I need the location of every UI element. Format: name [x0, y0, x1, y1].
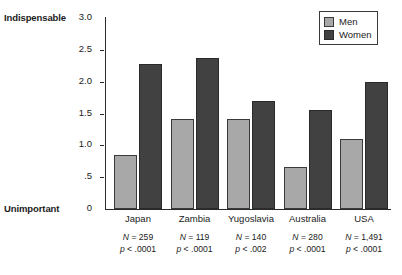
y-axis-tick-label: 2.5 — [79, 43, 92, 54]
annotation-p-value: p < .0001 — [120, 244, 156, 256]
annotation-sample-size: N = 280 — [289, 232, 325, 244]
annotation-japan: N = 259p < .0001 — [120, 232, 156, 255]
plot-area — [105, 18, 390, 209]
annotation-sample-size: N = 1,491 — [345, 232, 383, 244]
y-axis-tick-label: .5 — [84, 170, 92, 181]
bar-yugoslavia-men — [227, 119, 250, 209]
bar-yugoslavia-women — [252, 101, 275, 209]
bar-japan-women — [139, 64, 162, 209]
y-axis-tick-label: 3.0 — [79, 11, 92, 22]
annotation-australia: N = 280p < .0001 — [289, 232, 325, 255]
x-axis-label-australia: Australia — [289, 213, 326, 224]
y-axis-tick-mark — [100, 82, 104, 83]
y-axis-tick-mark — [100, 114, 104, 115]
x-axis-label-japan: Japan — [125, 213, 151, 224]
annotation-yugoslavia: N = 140p < .002 — [235, 232, 266, 255]
annotation-p-value: p < .002 — [235, 244, 266, 256]
annotation-p-value: p < .0001 — [345, 244, 383, 256]
y-axis-tick-label: 2.0 — [79, 75, 92, 86]
y-axis-tick-label: 0 — [87, 202, 92, 213]
bar-usa-men — [340, 139, 363, 209]
y-axis-tick-mark — [100, 177, 104, 178]
bar-group — [227, 18, 275, 209]
legend-swatch-women — [324, 30, 334, 40]
y-axis-tick-mark — [100, 50, 104, 51]
x-axis-label-yugoslavia: Yugoslavia — [228, 213, 274, 224]
annotation-p-value: p < .0001 — [289, 244, 325, 256]
y-axis-tick-label: 1.5 — [79, 107, 92, 118]
bar-group — [340, 18, 388, 209]
x-axis-line — [105, 209, 391, 210]
annotation-p-value: p < .0001 — [176, 244, 212, 256]
y-axis-tick-label: 1.0 — [79, 138, 92, 149]
legend-swatch-men — [324, 17, 334, 27]
annotation-sample-size: N = 259 — [120, 232, 156, 244]
bar-chart: Indispensable Unimportant 0.51.01.52.02.… — [0, 0, 402, 275]
annotation-sample-size: N = 140 — [235, 232, 266, 244]
bar-zambia-men — [171, 119, 194, 209]
bar-australia-women — [309, 110, 332, 209]
legend-item-women: Women — [324, 28, 372, 41]
legend-label: Women — [339, 29, 372, 40]
axis-endpoint-low-label: Unimportant — [4, 203, 59, 214]
bar-usa-women — [365, 82, 388, 209]
annotation-usa: N = 1,491p < .0001 — [345, 232, 383, 255]
bar-group — [114, 18, 162, 209]
bar-zambia-women — [196, 58, 219, 209]
bar-group — [171, 18, 219, 209]
bar-group — [284, 18, 332, 209]
bar-japan-men — [114, 155, 137, 209]
annotation-sample-size: N = 119 — [176, 232, 212, 244]
x-axis-label-zambia: Zambia — [179, 213, 211, 224]
x-axis-label-usa: USA — [354, 213, 374, 224]
bar-australia-men — [284, 167, 307, 209]
legend-item-men: Men — [324, 15, 372, 28]
y-axis-tick-mark — [100, 145, 104, 146]
annotation-zambia: N = 119p < .0001 — [176, 232, 212, 255]
legend-label: Men — [339, 16, 357, 27]
axis-endpoint-high-label: Indispensable — [4, 12, 66, 23]
chart-legend: MenWomen — [319, 11, 378, 45]
